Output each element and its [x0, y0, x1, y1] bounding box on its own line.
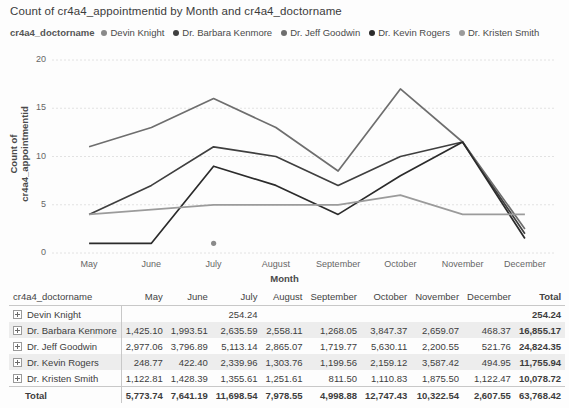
- series-point[interactable]: [211, 241, 216, 246]
- table-cell[interactable]: 3,796.89: [167, 338, 212, 354]
- legend-color-dot: [281, 30, 287, 36]
- table-cell[interactable]: 468.37: [463, 322, 515, 338]
- table-cell[interactable]: 494.95: [463, 354, 515, 370]
- table-cell[interactable]: [411, 306, 463, 323]
- table-cell[interactable]: [463, 306, 515, 323]
- table-cell[interactable]: 1,425.10: [121, 322, 166, 338]
- table-cell[interactable]: 5,630.11: [361, 338, 411, 354]
- line-chart[interactable]: Count of cr4a4_appointmentid 05101520 Ma…: [0, 45, 569, 293]
- column-header-november[interactable]: November: [411, 290, 463, 306]
- series-line[interactable]: [89, 195, 525, 214]
- row-header-cell[interactable]: Dr. Kevin Rogers: [9, 354, 121, 370]
- column-header-may[interactable]: May: [121, 290, 166, 306]
- y-axis-tick-label: 20: [24, 54, 46, 64]
- table-cell[interactable]: 2,977.06: [121, 338, 166, 354]
- table-cell[interactable]: 1,355.61: [212, 370, 262, 387]
- table-cell-total[interactable]: 24,824.35: [515, 338, 565, 354]
- table-row[interactable]: Dr. Kristen Smith1,122.811,428.391,355.6…: [9, 370, 565, 387]
- table-row[interactable]: Dr. Jeff Goodwin2,977.063,796.895,113.14…: [9, 338, 565, 354]
- total-row-label: Total: [9, 387, 121, 404]
- table-cell[interactable]: 1,268.05: [306, 322, 360, 338]
- table-cell-total[interactable]: 16,855.17: [515, 322, 565, 338]
- expand-plus-icon[interactable]: [13, 358, 22, 367]
- series-line[interactable]: [89, 142, 525, 234]
- series-line[interactable]: [89, 89, 525, 229]
- table-cell[interactable]: [261, 306, 306, 323]
- row-header-cell[interactable]: Dr. Barbara Kenmore: [9, 322, 121, 338]
- table-cell[interactable]: 1,251.61: [261, 370, 306, 387]
- legend-item[interactable]: Dr. Kevin Rogers: [369, 27, 450, 38]
- x-axis-tick-label: December: [504, 259, 546, 269]
- table-total-row[interactable]: Total5,773.747,641.1911,698.547,978.554,…: [9, 387, 565, 404]
- table-cell[interactable]: 2,339.96: [212, 354, 262, 370]
- table-cell[interactable]: 2,159.12: [361, 354, 411, 370]
- matrix-visual[interactable]: cr4a4_doctorname May June July August Se…: [9, 290, 565, 403]
- row-header-cell[interactable]: Dr. Kristen Smith: [9, 370, 121, 387]
- table-row[interactable]: Dr. Kevin Rogers248.77422.402,339.961,30…: [9, 354, 565, 370]
- table-cell[interactable]: 521.76: [463, 338, 515, 354]
- table-cell[interactable]: 248.77: [121, 354, 166, 370]
- table-cell[interactable]: 1,875.50: [411, 370, 463, 387]
- legend-color-dot: [369, 30, 375, 36]
- table-cell[interactable]: 1,122.81: [121, 370, 166, 387]
- table-cell[interactable]: 254.24: [212, 306, 262, 323]
- expand-plus-icon[interactable]: [13, 342, 22, 351]
- total-cell: 2,607.55: [463, 387, 515, 404]
- expand-plus-icon[interactable]: [13, 374, 22, 383]
- legend-item-label: Dr. Barbara Kenmore: [182, 27, 272, 38]
- table-cell[interactable]: [306, 306, 360, 323]
- chart-plot-area[interactable]: [0, 45, 569, 293]
- column-header-august[interactable]: August: [261, 290, 306, 306]
- total-cell: 5,773.74: [121, 387, 166, 404]
- table-row[interactable]: Devin Knight254.24254.24: [9, 306, 565, 323]
- table-cell[interactable]: 422.40: [167, 354, 212, 370]
- table-cell[interactable]: [167, 306, 212, 323]
- table-cell[interactable]: [121, 306, 166, 323]
- table-cell[interactable]: 1,122.47: [463, 370, 515, 387]
- x-axis-tick-label: August: [262, 259, 290, 269]
- table-cell[interactable]: 3,587.42: [411, 354, 463, 370]
- legend-item[interactable]: Dr. Barbara Kenmore: [173, 27, 272, 38]
- table-cell[interactable]: 1,719.77: [306, 338, 360, 354]
- table-cell[interactable]: 1,428.39: [167, 370, 212, 387]
- column-header-total[interactable]: Total: [515, 290, 565, 306]
- table-cell[interactable]: 1,110.83: [361, 370, 411, 387]
- row-label: Dr. Kristen Smith: [27, 373, 98, 384]
- table-cell[interactable]: 2,865.07: [261, 338, 306, 354]
- x-axis-tick-label: June: [142, 259, 162, 269]
- table-cell[interactable]: 1,993.51: [167, 322, 212, 338]
- series-line[interactable]: [89, 142, 525, 243]
- legend-item[interactable]: Dr. Jeff Goodwin: [281, 27, 360, 38]
- table-row[interactable]: Dr. Barbara Kenmore1,425.101,993.512,635…: [9, 322, 565, 338]
- table-cell[interactable]: [361, 306, 411, 323]
- column-header-september[interactable]: September: [306, 290, 360, 306]
- total-cell: 12,747.43: [361, 387, 411, 404]
- column-header-doctorname[interactable]: cr4a4_doctorname: [9, 290, 121, 306]
- column-header-june[interactable]: June: [167, 290, 212, 306]
- table-cell[interactable]: 1,303.76: [261, 354, 306, 370]
- table-cell-total[interactable]: 254.24: [515, 306, 565, 323]
- table-cell[interactable]: 2,635.59: [212, 322, 262, 338]
- table-cell[interactable]: 3,847.37: [361, 322, 411, 338]
- column-header-july[interactable]: July: [212, 290, 262, 306]
- legend-item-label: Devin Knight: [110, 27, 164, 38]
- table-cell-total[interactable]: 11,755.94: [515, 354, 565, 370]
- table-cell[interactable]: 5,113.14: [212, 338, 262, 354]
- expand-plus-icon[interactable]: [13, 310, 22, 319]
- row-header-cell[interactable]: Dr. Jeff Goodwin: [9, 338, 121, 354]
- legend-item[interactable]: Devin Knight: [101, 27, 164, 38]
- table-cell[interactable]: 1,199.56: [306, 354, 360, 370]
- expand-plus-icon[interactable]: [13, 326, 22, 335]
- x-axis-tick-label: November: [442, 259, 484, 269]
- legend-item[interactable]: Dr. Kristen Smith: [459, 27, 539, 38]
- column-header-december[interactable]: December: [463, 290, 515, 306]
- row-label: Dr. Jeff Goodwin: [27, 341, 97, 352]
- table-cell[interactable]: 811.50: [306, 370, 360, 387]
- table-cell-total[interactable]: 10,078.72: [515, 370, 565, 387]
- table-cell[interactable]: 2,659.07: [411, 322, 463, 338]
- row-label: Dr. Barbara Kenmore: [27, 325, 117, 336]
- table-cell[interactable]: 2,200.55: [411, 338, 463, 354]
- column-header-october[interactable]: October: [361, 290, 411, 306]
- table-cell[interactable]: 2,558.11: [261, 322, 306, 338]
- row-header-cell[interactable]: Devin Knight: [9, 306, 121, 323]
